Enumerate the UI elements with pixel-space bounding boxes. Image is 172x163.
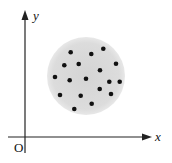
data-point — [98, 68, 103, 73]
data-point — [97, 87, 102, 92]
y-axis-label: y — [31, 8, 39, 23]
data-point — [109, 92, 114, 97]
data-point — [78, 93, 83, 98]
data-point — [101, 46, 106, 51]
data-point — [89, 101, 94, 106]
x-axis-arrow-icon — [142, 134, 152, 141]
y-axis-arrow-icon — [22, 10, 29, 20]
data-point — [72, 107, 77, 112]
shaded-region — [47, 37, 125, 115]
data-point — [117, 79, 122, 84]
data-point — [68, 50, 73, 55]
data-point — [58, 93, 63, 98]
x-axis-label: x — [154, 129, 161, 144]
data-point — [89, 52, 94, 57]
data-point — [114, 61, 119, 66]
origin-label: O — [14, 140, 23, 155]
scatter-diagram: y x O — [0, 0, 172, 163]
data-point — [76, 62, 81, 67]
data-point — [107, 79, 112, 84]
data-point — [53, 75, 58, 80]
data-point — [67, 78, 72, 83]
data-point — [62, 63, 67, 68]
data-point — [84, 76, 89, 81]
